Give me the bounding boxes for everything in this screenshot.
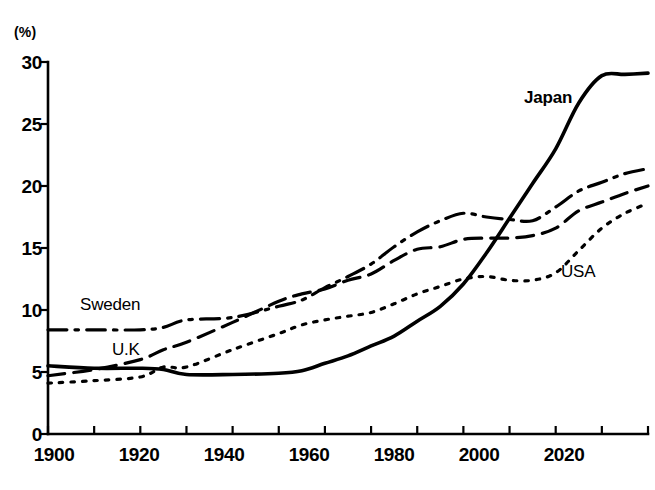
series-line-sweden xyxy=(48,169,648,330)
plot-area xyxy=(0,0,655,490)
data-series-group xyxy=(48,73,648,383)
series-line-uk xyxy=(48,186,648,376)
chart-container: (%) 30 25 20 15 10 5 0 1900 1920 1940 19… xyxy=(0,0,655,490)
